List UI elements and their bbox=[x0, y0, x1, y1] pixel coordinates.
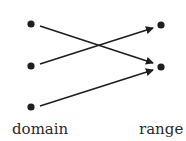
arrow-d3-to-r2 bbox=[40, 70, 153, 106]
domain-label: domain bbox=[12, 122, 68, 137]
function-mapping-diagram: domain range bbox=[0, 0, 186, 141]
domain-point-1 bbox=[27, 20, 34, 27]
domain-point-2 bbox=[27, 62, 34, 69]
arrow-d2-to-r1 bbox=[40, 28, 153, 64]
range-label: range bbox=[139, 122, 183, 137]
domain-point-3 bbox=[27, 103, 34, 110]
arrow-d1-to-r2 bbox=[40, 26, 153, 63]
range-point-1 bbox=[157, 21, 164, 28]
range-point-2 bbox=[157, 63, 164, 70]
